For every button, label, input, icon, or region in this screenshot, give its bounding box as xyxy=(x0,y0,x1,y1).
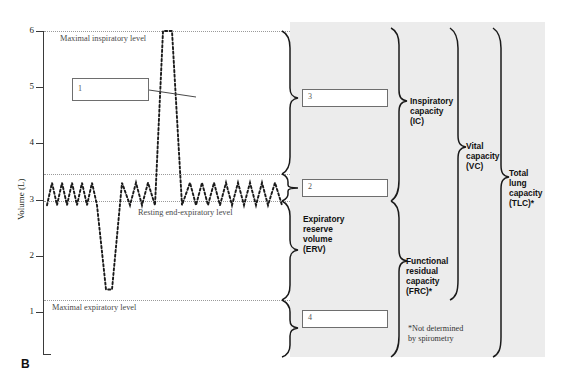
frc-line-2: residual xyxy=(406,266,448,276)
y-tick-1 xyxy=(36,312,43,313)
footnote-line-2: by spirometry xyxy=(408,334,463,344)
label-inspiratory-capacity: Inspiratory capacity (IC) xyxy=(410,96,453,126)
tlc-line-3: capacity xyxy=(509,188,543,198)
maximal-expiratory-level-label: Maximal expiratory level xyxy=(52,303,136,312)
maximal-expiratory-level-line xyxy=(44,300,290,301)
label-total-lung-capacity: Total lung capacity (TLC)* xyxy=(509,168,543,208)
tlc-line-4: (TLC)* xyxy=(509,198,543,208)
frc-line-3: capacity xyxy=(406,276,448,286)
vc-line-3: (VC) xyxy=(466,161,500,171)
y-tick-label-2: 2 xyxy=(20,251,34,260)
maximal-inspiratory-level-label: Maximal inspiratory level xyxy=(60,34,146,43)
erv-line-4: (ERV) xyxy=(303,244,344,254)
answer-box-1[interactable]: 1 xyxy=(72,78,149,101)
ic-line-3: (IC) xyxy=(410,116,453,126)
label-expiratory-reserve-volume: Expiratory reserve volume (ERV) xyxy=(303,214,344,254)
y-tick-label-4: 4 xyxy=(20,138,34,147)
y-tick-2 xyxy=(36,256,43,257)
y-tick-label-6: 6 xyxy=(20,26,34,35)
tidal-peak-level-line xyxy=(44,174,290,175)
footnote-line-1: *Not determined xyxy=(408,324,463,334)
ic-line-2: capacity xyxy=(410,106,453,116)
erv-line-1: Expiratory xyxy=(303,214,344,224)
label-functional-residual-capacity: Functional residual capacity (FRC)* xyxy=(406,256,448,296)
erv-line-2: reserve xyxy=(303,224,344,234)
box-1-leader-line xyxy=(149,90,196,97)
label-vital-capacity: Vital capacity (VC) xyxy=(466,141,500,171)
y-tick-label-1: 1 xyxy=(20,307,34,316)
answer-box-2[interactable]: 2 xyxy=(302,179,388,197)
frc-line-4: (FRC)* xyxy=(406,286,448,296)
footnote-not-determined-by-spirometry: *Not determined by spirometry xyxy=(408,324,463,344)
vc-line-2: capacity xyxy=(466,151,500,161)
answer-box-4[interactable]: 4 xyxy=(302,310,388,328)
erv-line-3: volume xyxy=(303,234,344,244)
y-axis-title: Volume (L) xyxy=(16,178,26,220)
y-tick-4 xyxy=(36,143,43,144)
resting-end-expiratory-level-label: Resting end-expiratory level xyxy=(138,208,232,217)
tlc-line-1: Total xyxy=(509,168,543,178)
y-axis-line xyxy=(43,31,44,355)
tlc-line-2: lung xyxy=(509,178,543,188)
y-tick-label-5: 5 xyxy=(20,82,34,91)
figure-panel-b: 6 5 4 3 2 1 Volume (L) Maximal inspirato… xyxy=(0,0,563,383)
ic-line-1: Inspiratory xyxy=(410,96,453,106)
frc-line-1: Functional xyxy=(406,256,448,266)
y-axis-foot xyxy=(43,354,51,355)
panel-letter: B xyxy=(21,357,30,371)
spirogram-trace xyxy=(47,31,282,290)
y-tick-3 xyxy=(36,200,43,201)
vc-line-1: Vital xyxy=(466,141,500,151)
answer-box-3[interactable]: 3 xyxy=(302,89,388,107)
maximal-inspiratory-level-line xyxy=(44,31,290,32)
y-tick-5 xyxy=(36,87,43,88)
y-tick-6 xyxy=(36,31,43,32)
resting-end-expiratory-level-line xyxy=(44,201,290,202)
